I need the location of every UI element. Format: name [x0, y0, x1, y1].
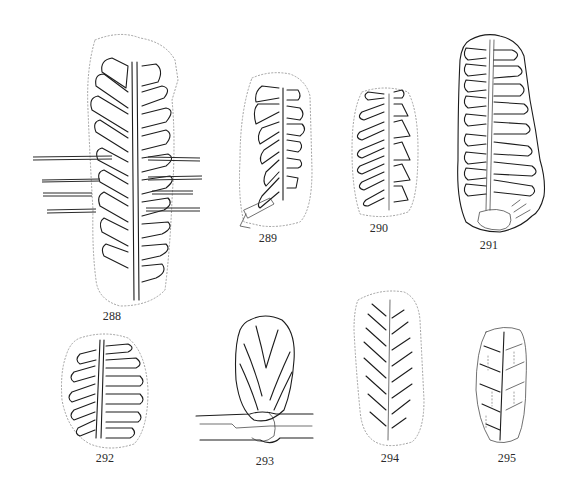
frond-295-drawing	[0, 0, 573, 499]
figure-label-295: 295	[498, 451, 517, 466]
illustration-plate: 288 289	[0, 0, 573, 499]
figure-295: 295	[0, 0, 573, 499]
